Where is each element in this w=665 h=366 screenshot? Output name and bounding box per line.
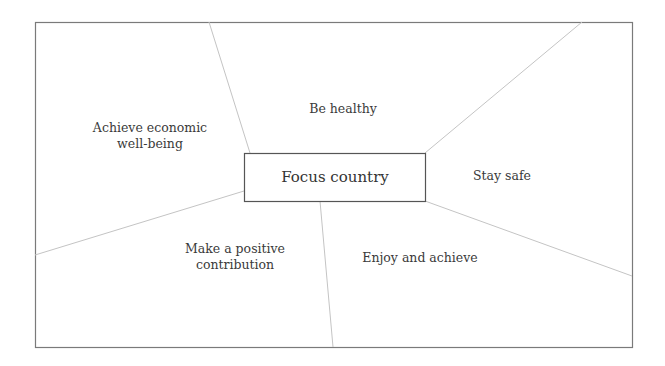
outcome-enjoy-and-achieve: Enjoy and achieve (362, 250, 477, 266)
outcome-stay-safe: Stay safe (473, 168, 531, 184)
outcome-be-healthy: Be healthy (309, 101, 377, 117)
outcome-make-positive-contribution-line1: Make a positive (185, 241, 285, 257)
divider-top-right (425, 22, 582, 153)
outcome-make-positive-contribution: Make a positive contribution (185, 241, 285, 273)
outcome-make-positive-contribution-line2: contribution (185, 257, 285, 273)
outcome-achieve-economic-wellbeing: Achieve economic well-being (93, 120, 207, 152)
outcome-achieve-economic-wellbeing-line2: well-being (93, 136, 207, 152)
outcome-achieve-economic-wellbeing-line1: Achieve economic (93, 120, 207, 136)
divider-bottom (320, 201, 333, 347)
focus-country-label: Focus country (281, 168, 389, 186)
divider-top-left (209, 22, 250, 153)
